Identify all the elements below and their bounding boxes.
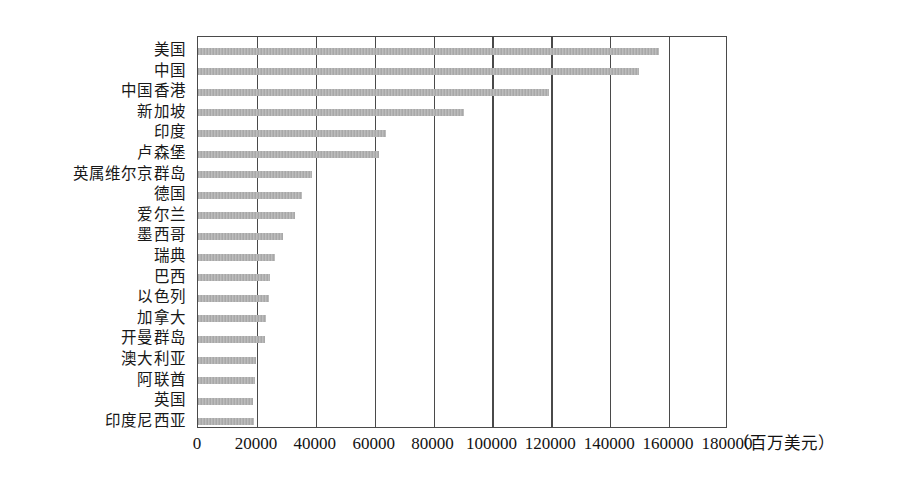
x-tick-label: 120000 <box>525 433 576 455</box>
bar <box>198 336 265 343</box>
bar <box>198 357 256 364</box>
x-tick-label: 140000 <box>584 433 635 455</box>
category-label: 澳大利亚 <box>0 351 186 366</box>
bar <box>198 109 464 116</box>
x-tick-label: 40000 <box>294 433 337 455</box>
category-label: 墨西哥 <box>0 227 186 242</box>
category-label: 英国 <box>0 392 186 407</box>
category-label: 英属维尔京群岛 <box>0 166 186 181</box>
category-axis-labels: 美国中国中国香港新加坡印度卢森堡英属维尔京群岛德国爱尔兰墨西哥瑞典巴西以色列加拿… <box>0 36 192 428</box>
category-label: 印度尼西亚 <box>0 413 186 428</box>
bar <box>198 89 549 96</box>
x-tick-label: 100000 <box>466 433 517 455</box>
bar-chart-figure: 美国中国中国香港新加坡印度卢森堡英属维尔京群岛德国爱尔兰墨西哥瑞典巴西以色列加拿… <box>0 0 903 483</box>
bar <box>198 130 386 137</box>
category-label: 巴西 <box>0 269 186 284</box>
category-label: 德国 <box>0 186 186 201</box>
x-tick-label: 80000 <box>411 433 454 455</box>
bar <box>198 254 275 261</box>
category-label: 开曼群岛 <box>0 330 186 345</box>
x-tick-label: 60000 <box>352 433 395 455</box>
bar <box>198 418 254 425</box>
bar <box>198 48 659 55</box>
bar <box>198 315 266 322</box>
category-label: 爱尔兰 <box>0 207 186 222</box>
value-axis-labels: （百万美元） 020000400006000080000100000120000… <box>0 433 903 463</box>
x-tick-label: 20000 <box>235 433 278 455</box>
bar <box>198 398 253 405</box>
category-label: 中国香港 <box>0 83 186 98</box>
bar <box>198 295 269 302</box>
category-label: 卢森堡 <box>0 145 186 160</box>
category-label: 以色列 <box>0 289 186 304</box>
bar <box>198 274 270 281</box>
bar <box>198 171 312 178</box>
bar <box>198 212 295 219</box>
bar <box>198 68 639 75</box>
gridline <box>551 37 552 427</box>
bar <box>198 233 283 240</box>
plot-area <box>197 36 727 428</box>
category-label: 美国 <box>0 42 186 57</box>
gridline <box>669 37 670 427</box>
category-label: 中国 <box>0 63 186 78</box>
category-label: 新加坡 <box>0 104 186 119</box>
category-label: 阿联酋 <box>0 372 186 387</box>
category-label: 印度 <box>0 124 186 139</box>
x-tick-label: 0 <box>193 433 202 455</box>
category-label: 瑞典 <box>0 248 186 263</box>
category-label: 加拿大 <box>0 310 186 325</box>
gridline <box>610 37 611 427</box>
bar <box>198 151 379 158</box>
x-tick-label: 160000 <box>643 433 694 455</box>
bar <box>198 377 255 384</box>
x-tick-label: 180000 <box>702 433 753 455</box>
bar <box>198 192 302 199</box>
